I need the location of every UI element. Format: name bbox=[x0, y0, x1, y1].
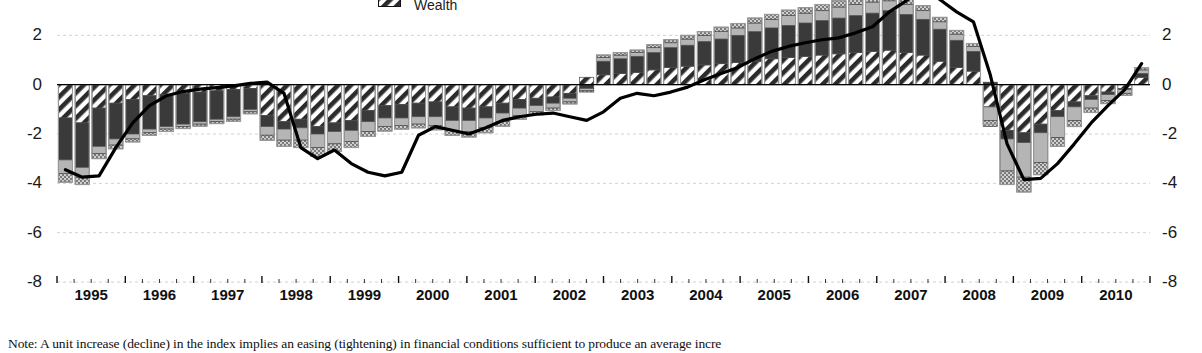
y-axis-label-right: -2 bbox=[1162, 125, 1202, 142]
y-axis-label-right: -4 bbox=[1162, 174, 1202, 191]
gridlines bbox=[57, 0, 1150, 282]
bar-group bbox=[159, 85, 173, 132]
bar-group bbox=[1067, 85, 1081, 127]
bar-group bbox=[210, 85, 224, 124]
bar-group bbox=[933, 17, 947, 84]
bar-group bbox=[950, 30, 964, 84]
bar-group bbox=[815, 5, 829, 85]
x-axis-year-2010: 2010 bbox=[1082, 286, 1150, 303]
bar-group bbox=[378, 85, 392, 131]
x-axis-year-2007: 2007 bbox=[877, 286, 945, 303]
bar-group bbox=[512, 85, 526, 120]
y-axis-label-left: 2 bbox=[0, 26, 42, 43]
x-axis-year-2003: 2003 bbox=[604, 286, 672, 303]
y-axis-label-right: 2 bbox=[1162, 26, 1202, 43]
y-axis-label-right: 0 bbox=[1162, 76, 1202, 93]
stacked-bars bbox=[58, 0, 1148, 192]
bar-group bbox=[126, 85, 140, 142]
bar-group bbox=[865, 0, 879, 85]
bar-group bbox=[462, 85, 476, 137]
bar-group bbox=[916, 6, 930, 85]
bar-group bbox=[613, 53, 627, 85]
legend-label-wealth: Wealth bbox=[414, 0, 457, 13]
bar-group bbox=[58, 85, 72, 182]
x-axis-year-1998: 1998 bbox=[262, 286, 330, 303]
bar-group bbox=[681, 35, 695, 84]
y-axis-label-left: -4 bbox=[0, 174, 42, 191]
y-axis-label-left: -2 bbox=[0, 125, 42, 142]
bar-group bbox=[428, 85, 442, 130]
bar-group bbox=[344, 85, 358, 148]
x-axis-year-2008: 2008 bbox=[945, 286, 1013, 303]
y-axis-label-left: -8 bbox=[0, 273, 42, 290]
x-axis-year-2000: 2000 bbox=[399, 286, 467, 303]
bar-group bbox=[311, 85, 325, 157]
bar-group bbox=[1050, 85, 1064, 147]
bar-group bbox=[327, 85, 341, 152]
x-axis-year-1995: 1995 bbox=[57, 286, 125, 303]
bar-group bbox=[596, 55, 610, 85]
bar-group bbox=[361, 85, 375, 137]
bar-group bbox=[563, 85, 577, 104]
bar-group bbox=[899, 0, 913, 85]
bar-group bbox=[798, 8, 812, 85]
financial-conditions-index-chart: 420-2-4-6-8 420-2-4-6-8 1995199619971998… bbox=[0, 0, 1202, 353]
bar-group bbox=[1084, 85, 1098, 113]
x-axis-year-2001: 2001 bbox=[467, 286, 535, 303]
bar-group bbox=[1000, 85, 1014, 185]
bar-group bbox=[664, 40, 678, 85]
bar-group bbox=[966, 43, 980, 84]
bar-group bbox=[294, 85, 308, 148]
bar-group bbox=[227, 85, 241, 122]
chart-note: Note: A unit increase (decline) in the i… bbox=[8, 336, 721, 352]
y-axis-label-right: -8 bbox=[1162, 273, 1202, 290]
bar-group bbox=[92, 85, 106, 159]
bar-group bbox=[75, 85, 89, 185]
x-axis-year-1999: 1999 bbox=[330, 286, 398, 303]
bar-group bbox=[849, 0, 863, 85]
x-axis-year-2002: 2002 bbox=[535, 286, 603, 303]
bar-group bbox=[395, 85, 409, 129]
x-axis-year-1997: 1997 bbox=[194, 286, 262, 303]
x-axis-year-2006: 2006 bbox=[808, 286, 876, 303]
bar-group bbox=[832, 1, 846, 85]
bar-group bbox=[529, 85, 543, 115]
legend-swatch-wealth bbox=[378, 0, 401, 7]
x-axis-year-2004: 2004 bbox=[672, 286, 740, 303]
bar-group bbox=[260, 85, 274, 141]
bar-group bbox=[411, 85, 425, 128]
bar-group bbox=[748, 18, 762, 85]
y-axis-label-left: 0 bbox=[0, 76, 42, 93]
bar-group bbox=[546, 85, 560, 111]
y-axis-label-right: -6 bbox=[1162, 224, 1202, 241]
bar-group bbox=[243, 85, 257, 114]
bar-group bbox=[1034, 85, 1048, 175]
y-axis-label-left: -6 bbox=[0, 224, 42, 241]
bar-group bbox=[731, 23, 745, 84]
x-axis-year-1996: 1996 bbox=[125, 286, 193, 303]
bar-group bbox=[630, 50, 644, 85]
x-axis-year-2009: 2009 bbox=[1013, 286, 1081, 303]
bar-group bbox=[647, 45, 661, 85]
x-axis-year-2005: 2005 bbox=[740, 286, 808, 303]
